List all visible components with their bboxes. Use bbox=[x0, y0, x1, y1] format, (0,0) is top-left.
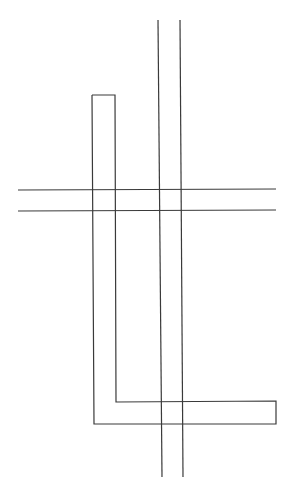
horizontal-line-1 bbox=[18, 189, 276, 190]
vertical-line-1 bbox=[158, 20, 162, 477]
l-shaped-strip bbox=[92, 95, 276, 424]
diagram-canvas bbox=[0, 0, 289, 498]
horizontal-line-2 bbox=[18, 210, 276, 211]
vertical-line-2 bbox=[180, 20, 183, 477]
